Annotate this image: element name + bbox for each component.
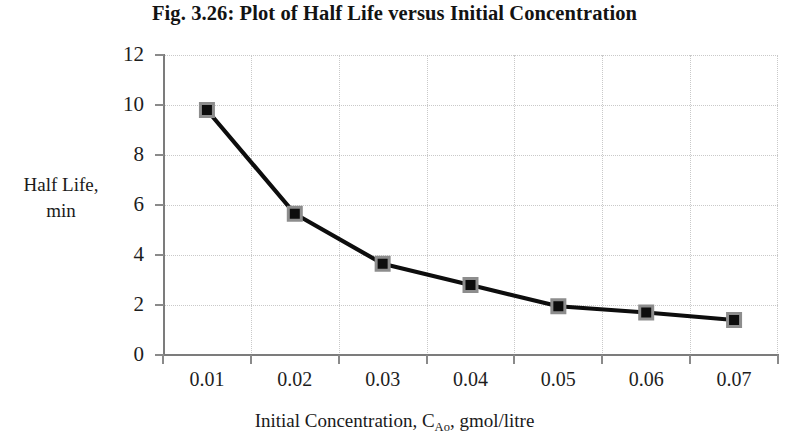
data-point-marker-fill xyxy=(378,259,388,269)
series-markers xyxy=(199,102,742,328)
data-series xyxy=(0,0,789,447)
data-point-marker-fill xyxy=(202,105,212,115)
data-point-marker-fill xyxy=(553,301,563,311)
data-point-marker-fill xyxy=(641,308,651,318)
data-point-marker-fill xyxy=(466,280,476,290)
data-point-marker-fill xyxy=(290,209,300,219)
figure-container: Fig. 3.26: Plot of Half Life versus Init… xyxy=(0,0,789,447)
data-point-marker-fill xyxy=(729,315,739,325)
